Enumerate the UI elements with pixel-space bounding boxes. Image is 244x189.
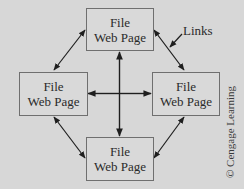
- links-annotation: Links: [183, 23, 213, 39]
- node-label-line1: File: [110, 15, 130, 30]
- link-arrow-bottom-right: [154, 117, 184, 158]
- node-label-line2: Web Page: [27, 94, 79, 109]
- web-pages-links-diagram: File Web Page File Web Page File Web Pag…: [0, 0, 244, 189]
- node-label-line2: Web Page: [94, 30, 146, 45]
- links-pointer-arrow: [170, 34, 182, 47]
- web-page-node-bottom: File Web Page: [86, 137, 154, 181]
- link-arrow-bottom-left: [54, 117, 85, 158]
- node-label-line2: Web Page: [160, 94, 212, 109]
- web-page-node-top: File Web Page: [86, 8, 154, 51]
- node-label-line1: File: [43, 79, 63, 94]
- web-page-node-right: File Web Page: [152, 72, 220, 116]
- node-label-line1: File: [176, 79, 196, 94]
- web-page-node-left: File Web Page: [19, 72, 88, 116]
- node-label-line1: File: [110, 144, 130, 159]
- node-label-line2: Web Page: [94, 159, 146, 174]
- link-arrow-top-left: [54, 30, 85, 70]
- copyright-credit: © Cengage Learning: [224, 86, 236, 178]
